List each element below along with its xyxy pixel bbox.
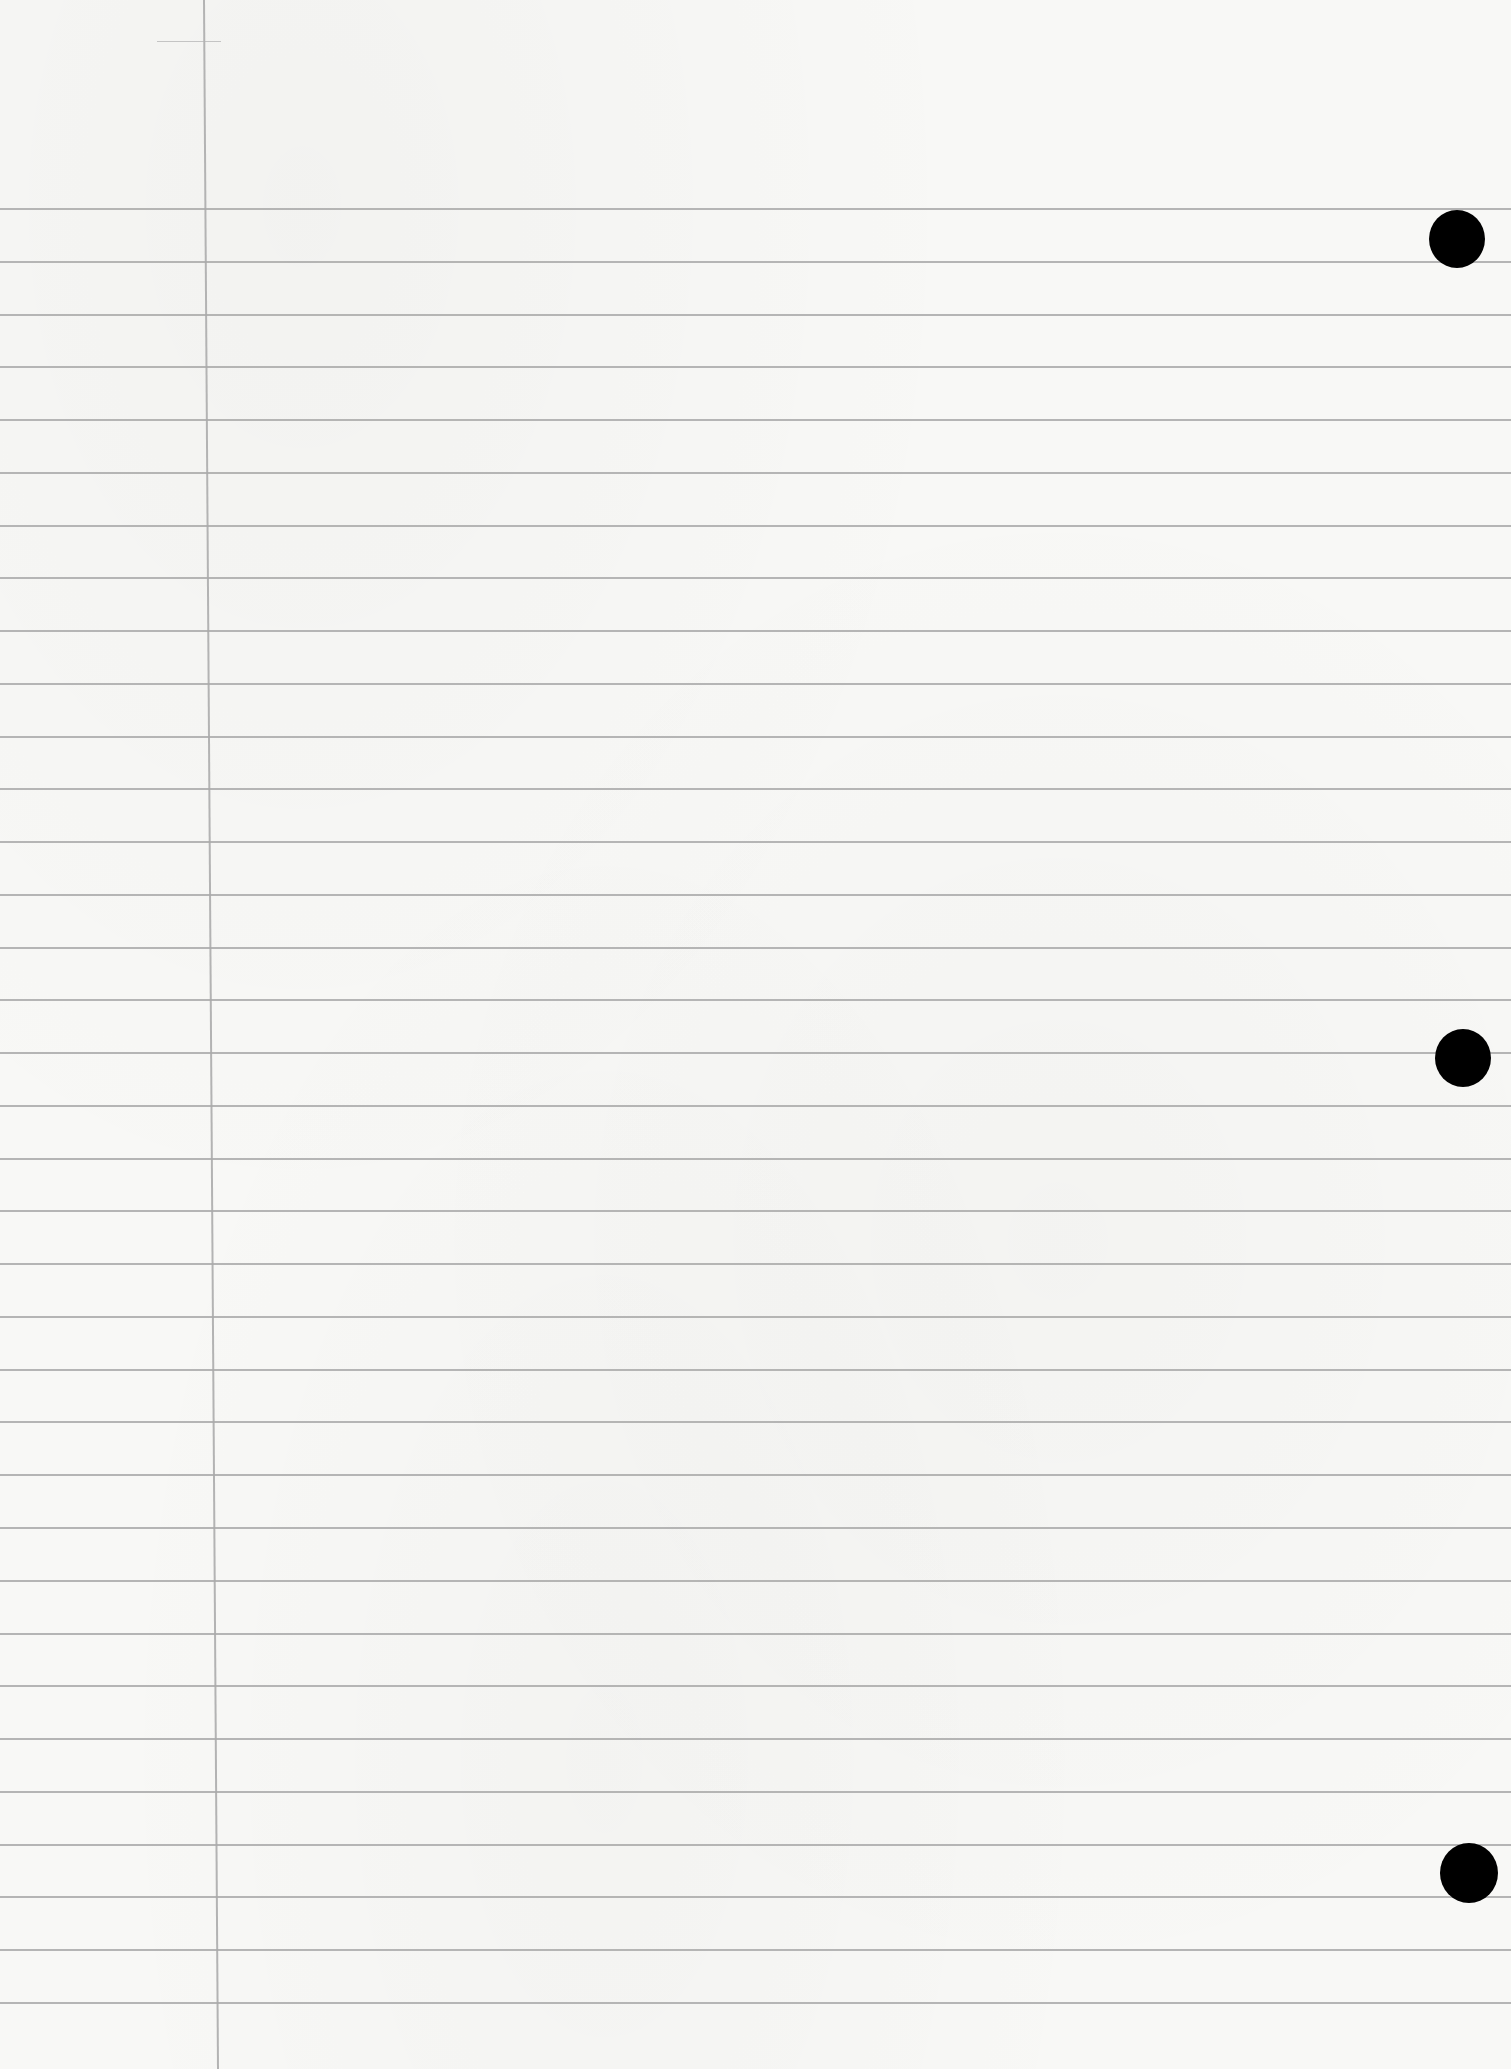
ruled-line <box>0 894 1511 896</box>
ruled-line <box>0 736 1511 738</box>
ruled-line <box>0 1052 1511 1054</box>
ruled-line <box>0 1105 1511 1107</box>
ruled-line <box>0 1263 1511 1265</box>
ruled-line <box>0 1580 1511 1582</box>
ruled-line <box>0 947 1511 949</box>
ruled-line <box>0 472 1511 474</box>
ruled-line <box>0 1844 1511 1846</box>
ruled-line <box>0 1949 1511 1951</box>
ruled-line <box>0 366 1511 368</box>
top-margin-tick <box>157 41 221 42</box>
ruled-line <box>0 1474 1511 1476</box>
ruled-line <box>0 1210 1511 1212</box>
ruled-line <box>0 630 1511 632</box>
ruled-line <box>0 577 1511 579</box>
ruled-line <box>0 1685 1511 1687</box>
ruled-line <box>0 208 1511 210</box>
ruled-line <box>0 788 1511 790</box>
ruled-line <box>0 2002 1511 2004</box>
ruled-line <box>0 314 1511 316</box>
ruled-line <box>0 1158 1511 1160</box>
binder-hole <box>1429 210 1485 268</box>
vertical-margin-line <box>203 0 219 2069</box>
ruled-line <box>0 261 1511 263</box>
ruled-line <box>0 1633 1511 1635</box>
binder-hole <box>1435 1029 1491 1087</box>
ruled-line <box>0 1421 1511 1423</box>
ruled-line <box>0 1369 1511 1371</box>
ruled-line <box>0 1527 1511 1529</box>
ruled-line <box>0 1896 1511 1898</box>
lined-paper-sheet <box>0 0 1511 2069</box>
ruled-line <box>0 841 1511 843</box>
ruled-line <box>0 525 1511 527</box>
binder-hole <box>1440 1843 1498 1903</box>
ruled-line <box>0 1316 1511 1318</box>
ruled-line <box>0 999 1511 1001</box>
ruled-line <box>0 419 1511 421</box>
ruled-line <box>0 683 1511 685</box>
ruled-line <box>0 1738 1511 1740</box>
ruled-line <box>0 1791 1511 1793</box>
